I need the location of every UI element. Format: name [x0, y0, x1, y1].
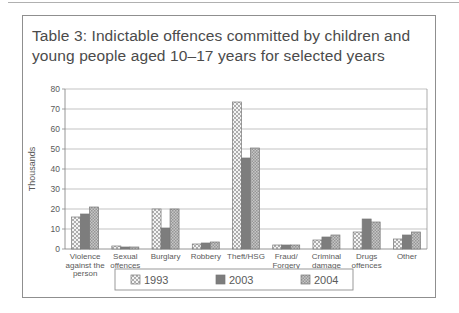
- chart-area: 01020304050607080ThousandsViolenceagains…: [25, 84, 437, 296]
- bar-2003-8: [362, 219, 371, 249]
- bar-2004-4: [210, 242, 219, 249]
- bar-2003-4: [201, 243, 210, 249]
- ytick-label-30: 30: [51, 184, 61, 194]
- category-label-7: damage: [312, 261, 341, 270]
- bar-2003-3: [161, 228, 170, 249]
- bar-1993-7: [313, 240, 322, 249]
- bar-2004-3: [170, 209, 179, 249]
- category-label-6: Forgery: [272, 261, 300, 270]
- bar-2004-7: [331, 235, 340, 249]
- bar-1993-3: [152, 209, 161, 249]
- figure-title-line1: Table 3: Indictable offences committed b…: [32, 26, 424, 46]
- bar-1993-1: [72, 217, 81, 249]
- figure-title-line2: young people aged 10–17 years for select…: [32, 46, 424, 66]
- category-label-8: offences: [352, 261, 382, 270]
- legend-label-2003: 2003: [229, 274, 253, 286]
- ytick-label-70: 70: [51, 104, 61, 114]
- bar-2003-1: [81, 214, 90, 249]
- table3-figure-box: Table 3: Indictable offences committed b…: [22, 15, 436, 298]
- figure-title: Table 3: Indictable offences committed b…: [32, 26, 424, 66]
- legend-label-2004: 2004: [314, 274, 338, 286]
- ytick-label-80: 80: [51, 84, 61, 94]
- ytick-label-10: 10: [51, 224, 61, 234]
- scanned-report-page: Table 3: Indictable offences committed b…: [0, 0, 459, 313]
- bar-1993-9: [393, 239, 402, 249]
- ytick-label-0: 0: [55, 244, 60, 254]
- legend-swatch-2004: [301, 275, 310, 284]
- legend-swatch-1993: [131, 275, 140, 284]
- legend-swatch-2003: [216, 275, 225, 284]
- bar-1993-6: [273, 245, 282, 249]
- category-label-5: Theft/HSG: [227, 252, 265, 261]
- ytick-label-40: 40: [51, 164, 61, 174]
- bar-2004-5: [251, 148, 260, 249]
- bar-1993-2: [112, 246, 121, 249]
- bar-1993-8: [353, 232, 362, 249]
- ytick-label-60: 60: [51, 124, 61, 134]
- bar-2004-9: [411, 232, 420, 249]
- ytick-label-20: 20: [51, 204, 61, 214]
- bar-2004-6: [291, 245, 300, 249]
- category-label-2: offences: [110, 261, 140, 270]
- bar-2003-5: [242, 158, 251, 249]
- bar-1993-5: [233, 102, 242, 249]
- category-label-3: Burglary: [151, 252, 181, 261]
- bar-2003-2: [121, 247, 130, 249]
- bar-2003-9: [402, 235, 411, 249]
- page-top-rule: [8, 2, 459, 3]
- offences-chart-svg: 01020304050607080ThousandsViolenceagains…: [25, 84, 437, 296]
- legend-label-1993: 1993: [144, 274, 168, 286]
- category-label-9: Other: [397, 252, 417, 261]
- ytick-label-50: 50: [51, 144, 61, 154]
- bar-1993-4: [192, 244, 201, 249]
- bar-2004-8: [371, 222, 380, 249]
- category-label-1: person: [73, 269, 97, 278]
- bar-2004-1: [90, 207, 99, 249]
- category-label-4: Robbery: [191, 252, 221, 261]
- bar-2003-7: [322, 237, 331, 249]
- bar-2004-2: [130, 247, 139, 249]
- y-axis-label: Thousands: [27, 146, 37, 191]
- bar-2003-6: [282, 245, 291, 249]
